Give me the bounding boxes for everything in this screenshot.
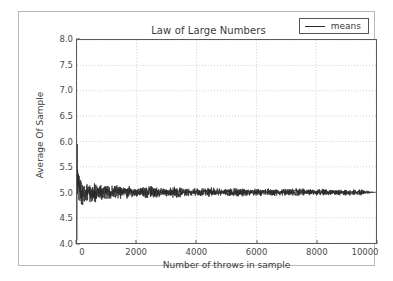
x-tick-mark xyxy=(256,240,257,244)
x-tick-label: 4000 xyxy=(186,247,208,257)
y-axis-tick-marks xyxy=(37,39,76,244)
x-tick-label: 0 xyxy=(79,247,84,257)
x-tick-label: 2000 xyxy=(125,247,147,257)
x-tick-label: 8000 xyxy=(306,247,328,257)
x-tick-mark xyxy=(76,240,77,244)
x-tick-mark xyxy=(316,240,317,244)
x-axis-label: Number of throws in sample xyxy=(76,260,377,270)
x-tick-label: 6000 xyxy=(246,247,268,257)
figure-outer-frame: Law of Large Numbers Average Of Sample 4… xyxy=(18,11,375,266)
plot-area xyxy=(76,39,377,244)
x-tick-mark xyxy=(377,240,378,244)
x-axis-tick-labels: 0200040006000800010000 xyxy=(76,247,377,259)
data-series-means xyxy=(77,40,376,243)
x-tick-label: 10000 xyxy=(351,247,378,257)
x-tick-mark xyxy=(136,240,137,244)
chart-legend: means xyxy=(299,18,369,34)
legend-entry-label: means xyxy=(331,21,361,31)
x-tick-mark xyxy=(196,240,197,244)
legend-line-swatch-icon xyxy=(305,26,325,27)
